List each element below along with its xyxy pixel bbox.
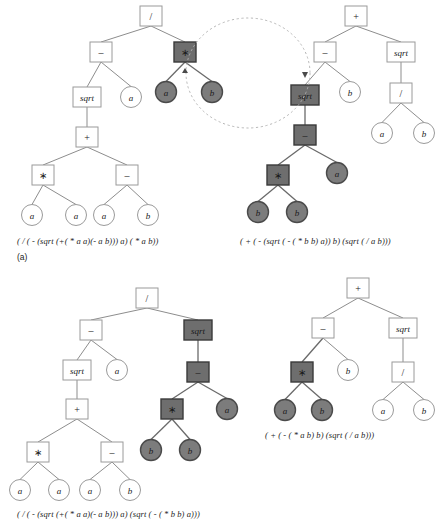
tree-node-minus[interactable]: –: [187, 362, 209, 382]
tree-node-a[interactable]: a: [156, 82, 177, 103]
node-label: sqrt: [191, 326, 206, 336]
node-label: –: [88, 325, 95, 336]
node-label: a: [102, 211, 107, 221]
tree-node-plus[interactable]: +: [347, 278, 369, 298]
node-label: ∗: [181, 47, 189, 58]
tree-edge: [325, 26, 356, 42]
tree-node-b[interactable]: b: [138, 205, 159, 226]
tree-edge: [87, 147, 127, 165]
tree-edge: [101, 62, 131, 87]
tree-node-a[interactable]: a: [80, 480, 101, 501]
nodes-child-tree-1: /–sqrtsqrta–+∗a∗–bbaaab: [10, 288, 238, 501]
tree-node-minus[interactable]: –: [90, 42, 112, 62]
nodes-parent-tree-2: +–sqrtsqrtb/ab–∗abb: [248, 6, 435, 223]
tree-node-b[interactable]: b: [340, 82, 361, 103]
tree-node-b[interactable]: b: [414, 400, 435, 421]
tree-node-b[interactable]: b: [287, 202, 308, 223]
tree-node-minus[interactable]: –: [116, 165, 138, 185]
node-label: ∗: [298, 367, 306, 378]
tree-edge: [38, 419, 77, 442]
tree-edge: [112, 462, 130, 480]
node-label: a: [381, 406, 386, 416]
tree-node-a[interactable]: a: [275, 400, 296, 421]
tree-edge: [77, 340, 91, 360]
tree-node-minus[interactable]: –: [312, 318, 334, 338]
tree-node-sqrt[interactable]: sqrt: [63, 360, 91, 380]
tree-edge: [325, 62, 350, 82]
caption-child-2: ( + ( - ( * a b) b) (sqrt ( / a b))): [265, 430, 374, 440]
tree-node-divide[interactable]: /: [140, 6, 162, 26]
tree-node-a[interactable]: a: [121, 87, 142, 108]
tree-node-b[interactable]: b: [202, 82, 223, 103]
tree-node-plus[interactable]: +: [345, 6, 367, 26]
tree-node-star[interactable]: ∗: [27, 442, 49, 462]
tree-node-star[interactable]: ∗: [161, 399, 183, 419]
node-label: /: [146, 293, 149, 304]
tree-edge: [172, 419, 190, 440]
tree-node-b[interactable]: b: [141, 440, 162, 461]
tree-node-b[interactable]: b: [120, 480, 141, 501]
tree-node-a[interactable]: a: [94, 205, 115, 226]
tree-edge: [91, 308, 147, 320]
node-label: b: [149, 446, 154, 456]
node-label: +: [84, 132, 90, 143]
tree-edge: [278, 145, 305, 165]
tree-node-b[interactable]: b: [180, 440, 201, 461]
caption-parent-2: ( + ( - (sqrt ( - ( * b b) a)) b) (sqrt …: [240, 236, 391, 246]
tree-node-minus[interactable]: –: [101, 442, 123, 462]
node-label: a: [225, 405, 230, 415]
node-label: sqrt: [298, 91, 313, 101]
tree-node-a[interactable]: a: [10, 480, 31, 501]
tree-node-divide[interactable]: /: [136, 288, 158, 308]
tree-node-plus[interactable]: +: [66, 399, 88, 419]
tree-edge: [323, 298, 358, 318]
tree-node-minus[interactable]: –: [80, 320, 102, 340]
node-label: sqrt: [80, 93, 95, 103]
tree-node-sqrt[interactable]: sqrt: [184, 320, 212, 340]
node-label: b: [295, 208, 300, 218]
tree-node-star[interactable]: ∗: [32, 165, 54, 185]
tree-edge: [305, 62, 325, 85]
node-label: /: [400, 88, 403, 99]
tree-node-sqrt[interactable]: sqrt: [73, 87, 101, 107]
tree-node-b[interactable]: b: [338, 360, 359, 381]
tree-node-plus[interactable]: +: [76, 127, 98, 147]
tree-node-b[interactable]: b: [312, 400, 333, 421]
tree-node-a[interactable]: a: [22, 205, 43, 226]
tree-edge: [32, 185, 43, 205]
tree-child-tree-2: [285, 298, 424, 400]
tree-node-a[interactable]: a: [372, 123, 393, 144]
tree-edge: [77, 419, 112, 442]
tree-node-divide[interactable]: /: [392, 362, 414, 382]
tree-node-a[interactable]: a: [373, 400, 394, 421]
node-label: –: [109, 447, 116, 458]
tree-edge: [285, 382, 302, 400]
tree-node-sqrt[interactable]: sqrt: [389, 318, 417, 338]
tree-node-star[interactable]: ∗: [291, 362, 313, 382]
tree-node-a[interactable]: a: [327, 163, 348, 184]
tree-node-star[interactable]: ∗: [267, 165, 289, 185]
tree-edge: [356, 26, 401, 42]
node-label: sqrt: [394, 48, 409, 58]
node-label: ∗: [34, 447, 42, 458]
tree-node-b[interactable]: b: [414, 123, 435, 144]
node-label: a: [380, 129, 385, 139]
node-label: b: [146, 211, 151, 221]
tree-node-star[interactable]: ∗: [174, 42, 196, 62]
tree-edge: [20, 462, 38, 480]
tree-edge: [185, 62, 212, 82]
tree-node-a[interactable]: a: [217, 399, 238, 420]
tree-node-minus[interactable]: –: [314, 42, 336, 62]
node-label: b: [346, 366, 351, 376]
tree-node-a[interactable]: a: [49, 480, 70, 501]
tree-node-sqrt[interactable]: sqrt: [291, 85, 319, 105]
tree-edge: [166, 62, 185, 82]
tree-node-b[interactable]: b: [248, 202, 269, 223]
tree-node-a[interactable]: a: [66, 205, 87, 226]
node-label: b: [128, 486, 133, 496]
tree-node-minus[interactable]: –: [294, 125, 316, 145]
tree-node-a[interactable]: a: [107, 360, 128, 381]
tree-node-sqrt[interactable]: sqrt: [387, 42, 415, 62]
node-label: a: [57, 486, 62, 496]
tree-node-divide[interactable]: /: [390, 83, 412, 103]
